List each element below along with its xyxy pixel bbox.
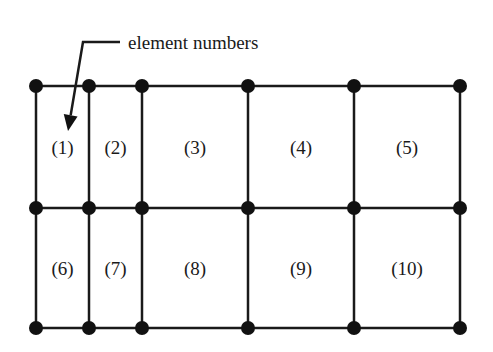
finite-element-mesh-diagram: (1)(2)(3)(4)(5)(6)(7)(8)(9)(10) element … (0, 0, 493, 352)
arrowhead-icon (64, 114, 78, 131)
node-icon (29, 79, 43, 93)
node-icon (453, 201, 467, 215)
node-icon (135, 321, 149, 335)
element-label: (1) (51, 137, 73, 159)
node-icon (347, 321, 361, 335)
node-icon (453, 79, 467, 93)
element-label: (3) (184, 137, 206, 159)
leader-line (71, 42, 120, 115)
node-icon (135, 201, 149, 215)
element-label: (6) (51, 258, 73, 280)
element-label: (8) (184, 258, 206, 280)
element-label: (10) (391, 258, 423, 280)
node-icon (347, 79, 361, 93)
element-label: (5) (396, 137, 418, 159)
node-icon (347, 201, 361, 215)
node-icon (453, 321, 467, 335)
element-label: (4) (290, 137, 312, 159)
node-icon (135, 79, 149, 93)
node-icon (29, 321, 43, 335)
node-icon (241, 79, 255, 93)
node-icon (241, 321, 255, 335)
node-icon (82, 321, 96, 335)
annotation-text: element numbers (128, 32, 258, 53)
node-icon (82, 201, 96, 215)
element-label: (2) (104, 137, 126, 159)
node-icon (241, 201, 255, 215)
element-label: (9) (290, 258, 312, 280)
node-icon (29, 201, 43, 215)
node-icon (82, 79, 96, 93)
element-label: (7) (104, 258, 126, 280)
